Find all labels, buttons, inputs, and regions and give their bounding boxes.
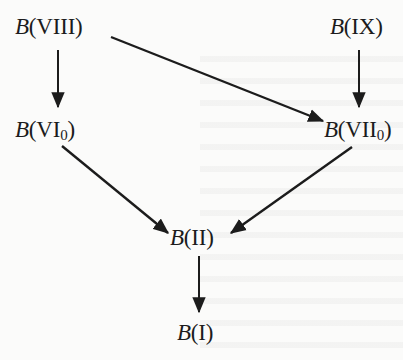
node-b-viii: B(VIII)	[15, 15, 83, 38]
node-label-close: )	[384, 117, 391, 142]
edge-viii-to-vii0	[111, 37, 323, 121]
node-b-vi0: B(VI0)	[15, 118, 75, 141]
node-label: (VI	[29, 117, 60, 142]
node-prefix: B	[170, 225, 184, 250]
node-prefix: B	[324, 117, 338, 142]
edge-vii0-to-ii	[231, 147, 352, 233]
node-prefix: B	[15, 117, 29, 142]
node-label: (I)	[191, 320, 213, 345]
edge-vi0-to-ii	[62, 146, 168, 233]
node-prefix: B	[330, 14, 344, 39]
node-label-close: )	[68, 117, 75, 142]
node-subscript: 0	[377, 127, 384, 143]
node-label: (IX)	[344, 14, 383, 39]
node-b-vii0: B(VII0)	[324, 118, 391, 141]
node-b-i: B(I)	[177, 321, 213, 344]
node-label: (VIII)	[29, 14, 83, 39]
lattice-diagram: B(VIII) B(IX) B(VI0) B(VII0) B(II) B(I)	[0, 0, 403, 360]
node-label: (VII	[338, 117, 377, 142]
edges-layer	[0, 0, 403, 360]
node-label: (II)	[184, 225, 214, 250]
node-b-ix: B(IX)	[330, 15, 383, 38]
node-b-ii: B(II)	[170, 226, 214, 249]
node-prefix: B	[15, 14, 29, 39]
node-prefix: B	[177, 320, 191, 345]
node-subscript: 0	[60, 127, 67, 143]
